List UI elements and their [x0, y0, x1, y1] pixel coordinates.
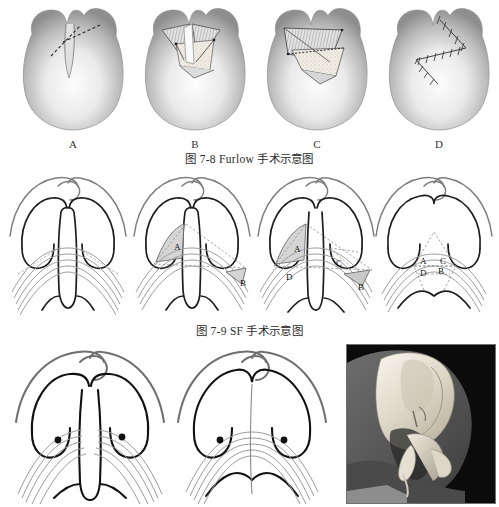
figure-caption-7-9: 图 7-9 SF 手术示意图 [0, 322, 499, 338]
sf3-label-d: D [286, 272, 293, 282]
sf3-label-a: A [294, 244, 301, 254]
marker-dot-right [119, 434, 126, 441]
sf4-label-d: D [420, 268, 427, 278]
bottom-right-postop [172, 344, 332, 504]
figure-caption-7-8: 图 7-8 Furlow 手术示意图 [0, 150, 499, 166]
panel-c-flaps-transposed [258, 4, 376, 132]
sf-step-1 [6, 170, 130, 316]
sf3-label-b: B [358, 282, 364, 292]
figure-page: A B C D 图 7-8 Furlow 手术示意图 [0, 0, 499, 507]
panel-a-incision-design [14, 4, 132, 132]
sf-step-3: A B C D [254, 170, 378, 316]
sf2-label-b: B [240, 278, 246, 288]
sf2-label-a: A [174, 242, 181, 252]
sf4-label-c: C [440, 256, 446, 266]
sf-series-row: A B [0, 170, 499, 316]
cadaver-specimen-photograph [346, 344, 496, 504]
panel-b-flaps-elevated [136, 4, 254, 132]
bottom-left-preop [10, 344, 170, 504]
furlow-series-row: A B C D [0, 0, 499, 136]
bottom-series-row [0, 344, 340, 504]
sf-step-2: A B [130, 170, 254, 316]
marker-dot-left [55, 437, 62, 444]
panel-d-closure-sutured [380, 4, 498, 132]
sf4-label-a: A [420, 256, 427, 266]
plate-label-d: D [366, 138, 499, 150]
sf3-label-c: C [336, 258, 342, 268]
midline-suture-line [251, 384, 253, 494]
sf4-label-b: B [438, 266, 444, 276]
marker-dot-right [281, 437, 288, 444]
marker-dot-left [217, 437, 224, 444]
sf-step-4: A C B D [372, 170, 496, 316]
